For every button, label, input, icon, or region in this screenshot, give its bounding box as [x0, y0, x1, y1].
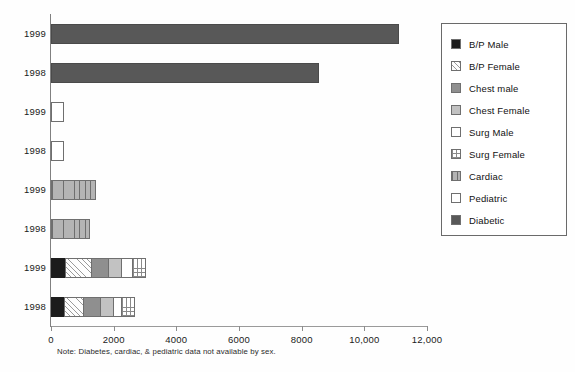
x-axis-tick: [427, 326, 428, 331]
legend-item-label: B/P Male: [469, 39, 509, 50]
legend-item[interactable]: B/P Male: [451, 33, 566, 55]
x-axis-tick: [364, 326, 365, 331]
bar-segment[interactable]: [108, 258, 121, 278]
bar[interactable]: [51, 258, 146, 278]
y-axis-tick-label: 1998: [4, 67, 46, 78]
chart-note: Note: Diabetes, cardiac, & pediatric dat…: [57, 347, 276, 356]
x-axis-tick-label: 4000: [165, 334, 187, 345]
y-axis-tick-label: 1999: [4, 28, 46, 39]
x-axis-tick-label: 2000: [103, 334, 125, 345]
legend-item[interactable]: Chest Female: [451, 99, 566, 121]
y-axis-tick-label: 1999: [4, 106, 46, 117]
legend-item-label: Pediatric: [469, 193, 507, 204]
legend-swatch-vertical-stripe-icon: [451, 171, 461, 181]
bar-segment[interactable]: [121, 297, 135, 317]
legend-swatch-light-gray-icon: [451, 105, 461, 115]
y-axis-tick-label: 1999: [4, 262, 46, 273]
bar-segment[interactable]: [83, 297, 99, 317]
y-axis-tick-label: 1998: [4, 223, 46, 234]
legend-item[interactable]: Surg Female: [451, 143, 566, 165]
x-axis-tick-label: 12,000: [412, 334, 442, 345]
y-axis-tick-label: 1998: [4, 145, 46, 156]
bar-chart: 19991998199919981999199819991998 0200040…: [0, 0, 575, 372]
bar-segment[interactable]: [51, 258, 65, 278]
bar[interactable]: [51, 219, 90, 239]
bar-segment[interactable]: [51, 24, 399, 44]
bar[interactable]: [51, 141, 64, 161]
legend-item[interactable]: Pediatric: [451, 187, 566, 209]
bar[interactable]: [51, 180, 96, 200]
bar-segment[interactable]: [51, 219, 90, 239]
bar[interactable]: [51, 297, 135, 317]
legend-item[interactable]: Diabetic: [451, 209, 566, 231]
bar-segment[interactable]: [51, 297, 64, 317]
bar-segment[interactable]: [51, 102, 64, 122]
legend-swatch-dark-gray-icon: [451, 83, 461, 93]
legend-item-label: Cardiac: [469, 171, 503, 182]
bar[interactable]: [51, 24, 399, 44]
legend-item[interactable]: Cardiac: [451, 165, 566, 187]
legend-item[interactable]: B/P Female: [451, 55, 566, 77]
x-axis-tick-label: 0: [48, 334, 53, 345]
bar[interactable]: [51, 102, 64, 122]
legend-item[interactable]: Chest male: [451, 77, 566, 99]
plot-area: [51, 14, 427, 326]
y-axis-tick-label: 1999: [4, 184, 46, 195]
bar-segment[interactable]: [51, 141, 64, 161]
legend-swatch-white-icon: [451, 193, 461, 203]
legend-swatch-medium-gray-icon: [451, 215, 461, 225]
legend-item-label: B/P Female: [469, 61, 520, 72]
x-axis-tick: [176, 326, 177, 331]
x-axis-tick: [239, 326, 240, 331]
legend-item-label: Chest male: [469, 83, 519, 94]
x-axis-tick-label: 10,000: [349, 334, 379, 345]
bar-segment[interactable]: [132, 258, 145, 278]
y-axis-tick-label: 1998: [4, 301, 46, 312]
bar-segment[interactable]: [64, 297, 83, 317]
bar-segment[interactable]: [91, 258, 109, 278]
x-axis-tick-label: 6000: [228, 334, 250, 345]
legend-swatch-diagonal-hatch-icon: [451, 61, 461, 71]
legend-item-label: Surg Male: [469, 127, 514, 138]
bar-segment[interactable]: [65, 258, 90, 278]
bar-segment[interactable]: [51, 63, 319, 83]
legend-swatch-white-icon: [451, 127, 461, 137]
x-axis-tick: [114, 326, 115, 331]
x-axis-tick: [302, 326, 303, 331]
legend-item[interactable]: Surg Male: [451, 121, 566, 143]
y-axis-tick-labels: 19991998199919981999199819991998: [0, 14, 46, 327]
bar-segment[interactable]: [121, 258, 132, 278]
legend-swatch-solid-black-icon: [451, 39, 461, 49]
legend-item-label: Surg Female: [469, 149, 525, 160]
bar-segment[interactable]: [51, 180, 96, 200]
bar-segment[interactable]: [113, 297, 121, 317]
legend-item-label: Chest Female: [469, 105, 530, 116]
legend-item-label: Diabetic: [469, 215, 505, 226]
bar-segment[interactable]: [100, 297, 113, 317]
bar[interactable]: [51, 63, 319, 83]
chart-legend: B/P MaleB/P FemaleChest maleChest Female…: [441, 23, 567, 236]
x-axis-tick-label: 8000: [291, 334, 313, 345]
legend-swatch-grid-icon: [451, 149, 461, 159]
x-axis-tick: [51, 326, 52, 331]
